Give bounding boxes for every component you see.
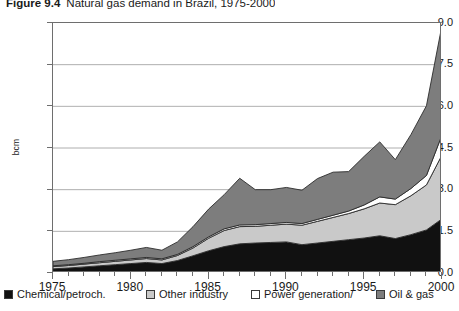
x-axis-major-tick [363, 272, 364, 279]
x-axis-minor-tick [348, 272, 349, 276]
legend-swatch-icon [4, 290, 13, 299]
chart-container: bcm 0.01.53.04.56.07.59.0 19751980198519… [0, 14, 453, 276]
x-axis-major-tick [441, 272, 442, 279]
x-axis-minor-tick [176, 272, 177, 276]
x-axis-minor-tick [410, 272, 411, 276]
legend-label: Other industry [159, 288, 228, 301]
legend-item[interactable]: Power generation/ [251, 288, 353, 301]
x-axis-minor-tick [332, 272, 333, 276]
x-axis-minor-tick [301, 272, 302, 276]
x-axis-minor-tick [317, 272, 318, 276]
figure-caption: Natural gas demand in Brazil, 1975-2000 [66, 0, 275, 9]
x-axis-major-tick [208, 272, 209, 279]
legend-label: Power generation/ [264, 288, 353, 301]
page-title: Figure 9.4Natural gas demand in Brazil, … [6, 0, 275, 14]
legend-swatch-icon [146, 290, 155, 299]
x-axis-minor-tick [161, 272, 162, 276]
x-axis-minor-tick [223, 272, 224, 276]
x-axis-major-tick [285, 272, 286, 279]
x-axis-minor-tick [99, 272, 100, 276]
x-axis-major-tick [130, 272, 131, 279]
legend-label: Oil & gas [389, 288, 434, 301]
x-axis-minor-tick [254, 272, 255, 276]
legend-label: Chemical/petroch. [17, 288, 106, 301]
x-axis-minor-tick [270, 272, 271, 276]
x-axis-minor-tick [114, 272, 115, 276]
x-axis-minor-tick [145, 272, 146, 276]
legend-item[interactable]: Other industry [146, 288, 228, 301]
plot-frame [52, 22, 441, 272]
legend-swatch-icon [251, 290, 260, 299]
x-axis-minor-tick [68, 272, 69, 276]
legend-swatch-icon [376, 290, 385, 299]
legend-item[interactable]: Chemical/petroch. [4, 288, 106, 301]
x-axis-major-tick [52, 272, 53, 279]
stacked-area-plot [53, 23, 440, 271]
x-axis-minor-tick [425, 272, 426, 276]
figure-number: Figure 9.4 [6, 0, 60, 9]
x-axis-minor-tick [379, 272, 380, 276]
plot-inner [53, 23, 440, 271]
chart-legend: Chemical/petroch.Other industryPower gen… [0, 288, 453, 311]
x-axis-minor-tick [83, 272, 84, 276]
y-axis-title: bcm [11, 129, 21, 165]
x-axis-minor-tick [394, 272, 395, 276]
x-axis-minor-tick [192, 272, 193, 276]
x-axis-minor-tick [239, 272, 240, 276]
legend-item[interactable]: Oil & gas [376, 288, 434, 301]
